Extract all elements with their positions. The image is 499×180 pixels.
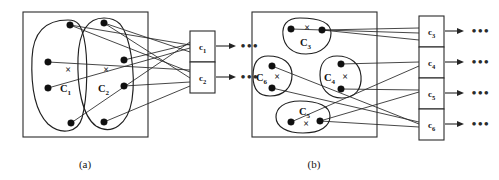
box-c4-arrow xyxy=(445,59,464,65)
node-dot xyxy=(288,119,295,126)
node-dot xyxy=(121,83,128,90)
continuation-dots-c4: ••• xyxy=(472,54,490,69)
node-dot xyxy=(68,120,75,127)
centroid-mark-c4: × xyxy=(342,71,348,82)
box-c5-arrow xyxy=(445,90,464,96)
cluster-label-c3: C3 xyxy=(300,37,312,51)
clustering-diagram: × C1 × C2 c1 c2 ••• ••• (a) xyxy=(0,0,499,180)
node-dot xyxy=(101,119,108,126)
node-dot xyxy=(269,85,276,92)
node-dot xyxy=(45,59,52,66)
edge xyxy=(341,89,419,90)
caption-panel-b: (b) xyxy=(308,158,321,171)
continuation-dots-c3: ••• xyxy=(472,23,490,38)
box-c2-arrow xyxy=(216,74,236,80)
centroid-mark-c3: × xyxy=(304,22,310,33)
node-dot xyxy=(121,57,128,64)
node-dot xyxy=(269,63,276,70)
box-c1-arrow xyxy=(216,43,236,49)
centroid-mark-c1: × xyxy=(65,64,71,75)
box-c6-arrow xyxy=(445,121,464,127)
node-dot xyxy=(338,61,345,68)
node-dot xyxy=(319,27,326,34)
cluster-label-c4: C4 xyxy=(324,72,336,86)
node-dot xyxy=(317,118,324,125)
node-dot xyxy=(45,85,52,92)
edge xyxy=(320,92,419,121)
edge xyxy=(322,28,419,30)
cluster-label-c1: C1 xyxy=(60,83,72,97)
centroid-mark-c6: × xyxy=(274,71,280,82)
edge xyxy=(341,62,419,64)
edge xyxy=(272,88,419,122)
panel-a: × C1 × C2 c1 c2 ••• ••• (a) xyxy=(23,12,259,171)
node-dot xyxy=(288,26,295,33)
node-dot xyxy=(101,20,108,27)
edge xyxy=(104,23,190,52)
figure-root: × C1 × C2 c1 c2 ••• ••• (a) xyxy=(0,0,499,180)
centroid-mark-c2: × xyxy=(103,64,109,75)
node-dot xyxy=(67,22,74,29)
edge xyxy=(124,82,190,86)
caption-panel-a: (a) xyxy=(79,158,92,171)
box-c3-arrow xyxy=(445,28,464,34)
continuation-dots-c1: ••• xyxy=(241,38,259,53)
edge xyxy=(320,121,419,127)
panel-b: × C3 × C6 × C4 × C5 c3 c4 c5 c6 ••• ••• xyxy=(252,12,490,171)
continuation-dots-c5: ••• xyxy=(472,85,490,100)
edge xyxy=(291,66,419,122)
continuation-dots-c6: ••• xyxy=(472,116,490,131)
cluster-label-c2: C2 xyxy=(98,83,110,97)
node-dot xyxy=(338,86,345,93)
edge xyxy=(70,25,190,45)
